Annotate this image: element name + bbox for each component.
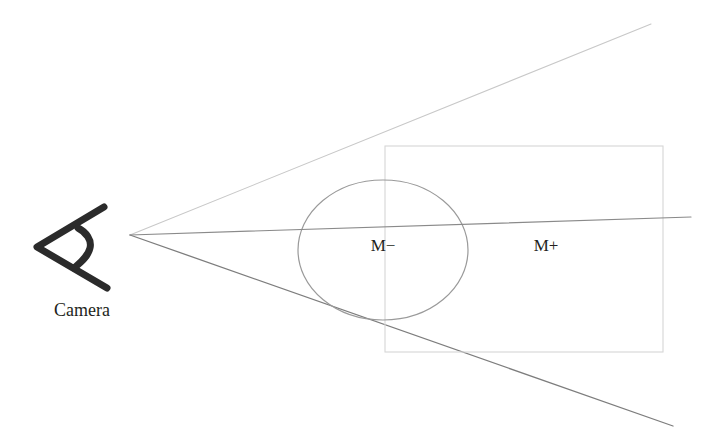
- outside-region-label: M+: [534, 236, 559, 255]
- center-axis-ray: [130, 217, 691, 235]
- upper-frustum-ray: [130, 24, 651, 235]
- diagram-canvas: Camera M− M+: [0, 0, 715, 446]
- lower-frustum-ray: [130, 235, 673, 426]
- diagram-root: Camera M− M+: [0, 0, 715, 446]
- bounding-rectangle: [385, 146, 663, 352]
- camera-icon: [37, 207, 107, 288]
- camera-label: Camera: [54, 300, 110, 320]
- inside-region-label: M−: [371, 236, 396, 255]
